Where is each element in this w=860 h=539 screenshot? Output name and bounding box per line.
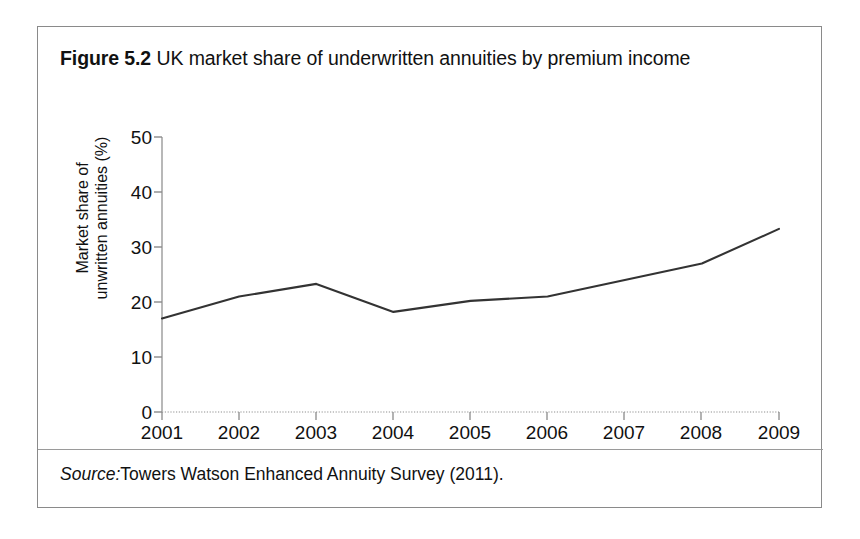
x-tick-label-2005: 2005 xyxy=(435,423,505,442)
data-series-line xyxy=(162,229,779,319)
x-tick-label-2008: 2008 xyxy=(666,423,736,442)
x-tick-label-2006: 2006 xyxy=(512,423,582,442)
x-tick-label-2004: 2004 xyxy=(358,423,428,442)
x-tick-label-2003: 2003 xyxy=(281,423,351,442)
x-tick-label-2002: 2002 xyxy=(204,423,274,442)
source-divider xyxy=(38,449,823,450)
figure-container: Figure 5.2 UK market share of underwritt… xyxy=(37,26,822,508)
chart-plot-area: Market share of unwritten annuities (%) … xyxy=(38,27,823,509)
x-tick-label-2001: 2001 xyxy=(127,423,197,442)
x-tick-label-2007: 2007 xyxy=(589,423,659,442)
source-note: Source:Towers Watson Enhanced Annuity Su… xyxy=(60,463,504,485)
source-text: Towers Watson Enhanced Annuity Survey (2… xyxy=(120,464,503,484)
source-label: Source: xyxy=(60,464,120,484)
x-tick-label-2009: 2009 xyxy=(744,423,814,442)
figure-page: Figure 5.2 UK market share of underwritt… xyxy=(0,0,860,539)
